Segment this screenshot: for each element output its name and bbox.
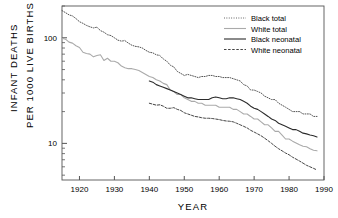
y-axis-title-line2: PER 1000 LIVE BIRTHS	[24, 2, 35, 128]
x-tick-label: 1930	[106, 185, 124, 194]
legend-label: Black total	[251, 14, 286, 23]
y-axis-title-line1: INFANT DEATHS	[8, 24, 19, 112]
y-tick-label: 100	[44, 34, 58, 43]
x-axis-title: YEAR	[178, 201, 208, 212]
x-tick-label: 1920	[71, 185, 89, 194]
x-axis-ticks: 19201930194019501960197019801990	[71, 176, 334, 194]
series-line	[149, 103, 317, 170]
y-axis-title: INFANT DEATHS PER 1000 LIVE BIRTHS	[8, 2, 35, 128]
x-tick-label: 1990	[315, 185, 333, 194]
x-tick-label: 1950	[175, 185, 193, 194]
y-tick-label: 10	[48, 139, 57, 148]
chart-canvas: 10100 19201930194019501960197019801990 I…	[0, 0, 338, 218]
x-tick-label: 1980	[280, 185, 298, 194]
y-axis-ticks: 10100	[44, 6, 67, 175]
series-line	[62, 38, 317, 151]
legend-label: White neonatal	[251, 46, 302, 55]
legend-label: White total	[251, 25, 287, 34]
chart-legend: Black totalWhite totalBlack neonatalWhit…	[224, 14, 302, 55]
x-tick-label: 1960	[210, 185, 228, 194]
x-tick-label: 1940	[140, 185, 158, 194]
legend-label: Black neonatal	[251, 35, 301, 44]
x-tick-label: 1970	[245, 185, 263, 194]
infant-mortality-chart: 10100 19201930194019501960197019801990 I…	[0, 0, 338, 218]
